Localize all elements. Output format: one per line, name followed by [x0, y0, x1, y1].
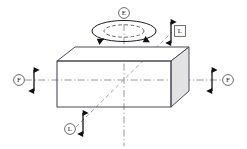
label-top-text: E — [122, 9, 126, 17]
label-bottom-left-text: L — [68, 125, 72, 133]
label-right-text: F — [226, 76, 230, 84]
rotation-arrowhead-left — [101, 39, 104, 41]
label-right: F — [223, 75, 234, 86]
box-front-face — [57, 61, 171, 107]
rotation-arrowhead-right — [144, 39, 147, 41]
label-left: F — [14, 75, 25, 86]
label-left-text: F — [17, 76, 21, 84]
label-bottom-left: L — [65, 124, 76, 135]
label-upper-right: L — [175, 26, 186, 37]
label-upper-right-text: L — [178, 27, 182, 35]
diagram-canvas: E L F F L — [0, 0, 247, 149]
label-top: E — [119, 8, 130, 19]
centerline-group — [25, 24, 222, 146]
rectangular-box — [57, 47, 189, 107]
box-top-face — [57, 47, 189, 61]
